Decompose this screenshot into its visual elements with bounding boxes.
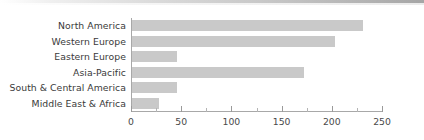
x-axis-tick — [231, 106, 232, 112]
x-axis-tick-label: 250 — [373, 116, 391, 127]
x-axis-minor-tick — [357, 108, 358, 112]
x-axis-tick-label: 150 — [273, 116, 291, 127]
x-axis-tick-label: 0 — [128, 116, 134, 127]
bar-chart: North America Western Europe Eastern Eur… — [0, 0, 424, 140]
x-axis-minor-tick — [257, 108, 258, 112]
x-axis-minor-tick — [156, 108, 157, 112]
x-axis-minor-tick — [206, 108, 207, 112]
plot-area: North America Western Europe Eastern Eur… — [0, 0, 424, 140]
x-axis-tick — [332, 106, 333, 112]
x-axis-tick-label: 200 — [323, 116, 341, 127]
x-axis-tick — [181, 106, 182, 112]
x-axis-tick-label: 100 — [223, 116, 241, 127]
x-axis-tick-label: 50 — [175, 116, 187, 127]
x-axis-minor-tick — [307, 108, 308, 112]
x-axis-tick — [382, 106, 383, 112]
x-axis-tick — [131, 106, 132, 112]
x-axis-ticks: 050100150200250 — [0, 0, 424, 140]
x-axis-tick — [282, 106, 283, 112]
